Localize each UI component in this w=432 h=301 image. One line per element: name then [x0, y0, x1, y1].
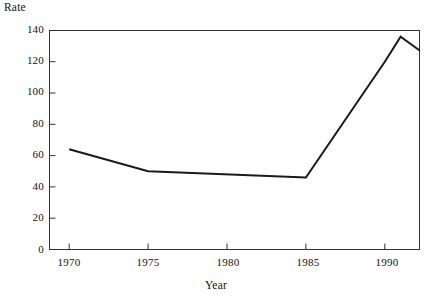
x-axis-ticks — [69, 244, 385, 250]
data-line-rate — [69, 37, 420, 178]
y-axis-ticks — [50, 31, 56, 250]
plot-frame — [50, 31, 420, 250]
chart-canvas — [0, 0, 432, 301]
line-chart: Rate Year 0 20 40 60 80 100 120 140 1970… — [0, 0, 432, 301]
